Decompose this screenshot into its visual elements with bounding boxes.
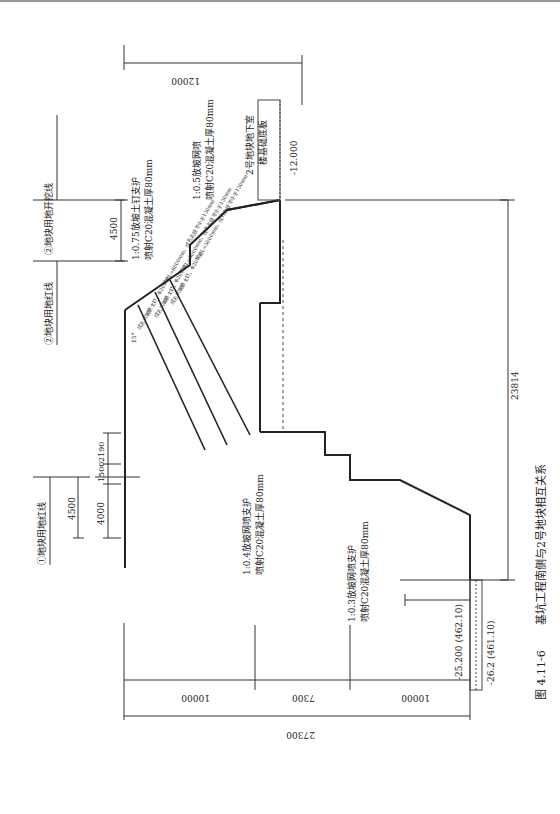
label-support-04-2: 喷射C20混凝土厚80mm [254,474,265,575]
dim-4500-left: 4500 [67,497,77,520]
label-nail-angle: 15° [130,332,137,343]
soil-nail-3 [170,280,250,435]
dim-1500: 1500 [97,462,106,482]
label-red-line-1: ①地块用地红线 [36,502,47,565]
elev-basement: -12.000 [289,140,299,175]
label-support-075-1: 1:0.75放坡土钉支护 [130,177,141,260]
figure-title: 基坑工程南侧与2号地块相互关系 [534,464,548,625]
figure-number: 图 4.11-6 [535,650,548,700]
dim-12000: 12000 [171,76,200,86]
dim-4000: 4000 [96,502,106,525]
elev-bottom-1: -25.200 (462.10) [454,604,464,680]
label-basement-2-line1: 2号地块地下室 [244,115,255,175]
dim-7300: 7300 [292,693,315,703]
label-excavation-line-2: ②地块用地开挖线 [43,183,54,255]
label-nail-2: 成孔式钢筋土钉，Φ20钢筋L=5000mm，成孔孔径不小于130mm [153,186,234,319]
label-support-03-1: 1:0.3放坡网喷支护 [346,545,357,622]
dim-23814: 23814 [510,371,520,400]
label-support-04-1: 1:0.4放坡网喷支护 [241,498,252,575]
label-support-03-2: 喷射C20混凝土厚80mm [359,521,370,622]
excavation-section-drawing: ②地块用地开挖线 ②地块用地红线 ①地块用地红线 4500 4500 4000 … [0,0,560,814]
label-red-line-2: ②地块用地红线 [43,282,54,345]
dim-27300: 27300 [286,730,315,740]
dim-2190: 2190 [97,442,106,462]
dim-10000-a: 10000 [181,693,210,703]
elev-bottom-2: -26.2 (461.10) [486,621,496,685]
dim-4500-top: 4500 [109,217,119,240]
label-basement-2-line2: 楼基础底板 [257,120,268,165]
dim-10000-b: 10000 [401,693,430,703]
label-support-075-2: 喷射C20混凝土厚80mm [143,159,154,260]
label-support-05-1: 1:0.5放坡网喷 [191,141,202,200]
label-support-05-2: 喷射C20混凝土厚80mm [204,99,215,200]
